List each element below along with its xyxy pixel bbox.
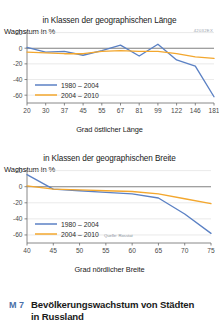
x-tick-label: 55 <box>98 107 106 114</box>
source-note: Quelle: Rosstat <box>104 233 133 238</box>
legend-label: 2004 – 2010 <box>61 92 99 99</box>
series-line <box>27 186 211 204</box>
figure-caption-tag: M 7 <box>9 299 31 311</box>
x-tick-label: 75 <box>207 247 215 254</box>
y-tick-label: 20 <box>15 167 23 174</box>
chart-longitude-xlabel: Grad östlicher Länge <box>0 125 219 134</box>
x-tick-label: 20 <box>23 107 31 114</box>
chart-longitude-plot: 200-20-40-602030374555678199122146181198… <box>0 26 219 126</box>
x-tick-label: 81 <box>136 107 144 114</box>
x-tick-label: 37 <box>61 107 69 114</box>
y-tick-label: 0 <box>19 45 23 52</box>
x-tick-label: 30 <box>42 107 50 114</box>
chart-latitude-xlabel: Grad nördlicher Breite <box>0 265 219 274</box>
figure-caption: M 7 Bevölkerungswachstum von Städten in … <box>0 299 219 323</box>
chart-longitude: in Klassen der geographischen Länge Wach… <box>0 0 219 146</box>
chart-latitude-plot: 200-20-40-6040455055606570751980 – 20042… <box>0 164 219 266</box>
y-tick-label: -60 <box>13 92 23 99</box>
chart-latitude: in Klassen der geographischen Breite Wac… <box>0 146 219 294</box>
y-tick-label: -20 <box>13 60 23 67</box>
chart-longitude-plot-wrap: 200-20-40-602030374555678199122146181198… <box>0 26 219 126</box>
figure-caption-line2: in Russland <box>31 311 194 323</box>
chart-latitude-title: in Klassen der geographischen Breite <box>0 146 219 164</box>
y-tick-label: -20 <box>13 199 23 206</box>
y-tick-label: 20 <box>15 29 23 36</box>
chart-longitude-title: in Klassen der geographischen Länge <box>0 0 219 26</box>
figure-root: in Klassen der geographischen Länge Wach… <box>0 0 219 325</box>
x-tick-label: 67 <box>117 107 125 114</box>
legend-label: 1980 – 2004 <box>61 82 99 89</box>
y-tick-label: -60 <box>13 231 23 238</box>
x-tick-label: 181 <box>208 107 219 114</box>
figure-caption-line1: Bevölkerungswachstum von Städten <box>31 299 194 311</box>
chart-latitude-plot-wrap: 200-20-40-6040455055606570751980 – 20042… <box>0 164 219 266</box>
x-tick-label: 45 <box>79 107 87 114</box>
x-tick-label: 40 <box>23 247 31 254</box>
x-tick-label: 70 <box>181 247 189 254</box>
x-tick-label: 146 <box>190 107 201 114</box>
y-tick-label: 0 <box>19 183 23 190</box>
x-tick-label: 99 <box>154 107 162 114</box>
legend-label: 1980 – 2004 <box>61 221 99 228</box>
x-tick-label: 50 <box>76 247 84 254</box>
legend-label: 2004 – 2010 <box>61 231 99 238</box>
x-tick-label: 60 <box>128 247 136 254</box>
series-line <box>27 44 214 96</box>
figure-caption-body: Bevölkerungswachstum von Städten in Russ… <box>31 299 194 323</box>
x-tick-label: 65 <box>155 247 163 254</box>
y-tick-label: -40 <box>13 215 23 222</box>
x-tick-label: 45 <box>50 247 58 254</box>
y-tick-label: -40 <box>13 76 23 83</box>
x-tick-label: 55 <box>102 247 110 254</box>
x-tick-label: 122 <box>171 107 182 114</box>
